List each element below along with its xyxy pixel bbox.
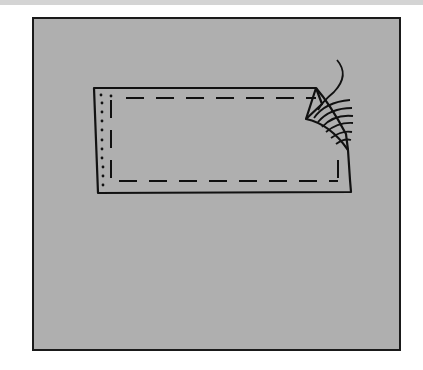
stitching-illustration bbox=[0, 0, 423, 370]
thread-strands bbox=[314, 60, 353, 144]
fabric-outline bbox=[94, 88, 351, 193]
dashed-stitch-line bbox=[111, 98, 338, 182]
